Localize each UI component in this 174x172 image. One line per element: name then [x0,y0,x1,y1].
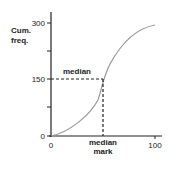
y-tick-label-0: 0 [41,132,46,141]
y-tick-label-150: 150 [32,75,46,84]
y-axis-label-line2: freq. [11,36,28,45]
x-tick-label-100: 100 [148,141,162,150]
x-tick-label-0: 0 [49,141,54,150]
median-mark-label-line1: median [89,138,117,147]
cumulative-frequency-chart: 300 150 0 0 100 Cum. freq. median median… [0,0,174,172]
y-axis-label-line1: Cum. [11,26,31,35]
median-label: median [63,67,91,76]
median-mark-label-line2: mark [93,147,113,156]
y-tick-label-300: 300 [32,19,46,28]
